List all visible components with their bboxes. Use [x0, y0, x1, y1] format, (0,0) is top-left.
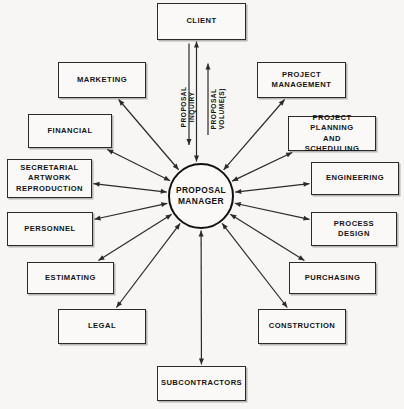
edge-project-management [224, 100, 285, 170]
edge-purchasing [230, 214, 304, 260]
proposal-manager-diagram: PROPOSAL MANAGER PROPOSAL INQUIRY PROPOS… [0, 0, 404, 409]
arrowhead [95, 216, 101, 221]
arrowhead [199, 359, 204, 365]
node-purchasing[interactable]: PURCHASING [289, 262, 376, 294]
node-label: PROJECT PLANNING AND SCHEDULING [289, 113, 375, 153]
node-project-planning[interactable]: PROJECT PLANNING AND SCHEDULING [288, 116, 376, 151]
node-project-management[interactable]: PROJECT MANAGEMENT [257, 62, 346, 98]
node-marketing[interactable]: MARKETING [58, 62, 146, 98]
edge-line [230, 214, 304, 260]
node-label: PROCESS DESIGN [331, 219, 377, 239]
arrowhead [161, 202, 167, 207]
arrowhead [298, 255, 304, 260]
edge-line [235, 203, 310, 219]
node-subcontractors[interactable]: SUBCONTRACTORS [157, 366, 246, 401]
edge-financial [107, 150, 170, 181]
flow-label-text: PROPOSAL VOLUME(S) [210, 88, 225, 130]
edge-legal [116, 223, 180, 307]
arrowhead [205, 64, 210, 70]
node-process-design[interactable]: PROCESS DESIGN [311, 212, 397, 246]
node-legal[interactable]: LEGAL [58, 309, 146, 344]
edge-line [98, 214, 171, 260]
node-personnel[interactable]: PERSONNEL [7, 212, 93, 246]
edge-engineering [235, 184, 309, 192]
flow-label-text: PROPOSAL INQUIRY [180, 86, 195, 127]
node-client[interactable]: CLIENT [157, 3, 246, 40]
edge-line [222, 223, 287, 307]
edge-line [224, 100, 285, 170]
node-label: PURCHASING [302, 273, 364, 283]
node-label: CLIENT [183, 16, 219, 26]
edge-construction [222, 223, 287, 307]
arrowhead [194, 156, 199, 162]
proposal-manager-hub[interactable]: PROPOSAL MANAGER [168, 163, 234, 229]
edge-line [235, 184, 309, 192]
edge-project-planning [232, 153, 292, 182]
node-construction[interactable]: CONSTRUCTION [258, 309, 346, 344]
node-label: SECRETARIAL ARTWORK REPRODUCTION [13, 163, 86, 193]
node-secretarial[interactable]: SECRETARIAL ARTWORK REPRODUCTION [7, 159, 92, 198]
edge-line [94, 184, 167, 192]
edge-process-design [235, 203, 310, 219]
hub-label: PROPOSAL MANAGER [170, 185, 232, 207]
arrowhead [303, 216, 309, 221]
node-label: PROJECT MANAGEMENT [269, 70, 335, 90]
node-financial[interactable]: FINANCIAL [28, 114, 112, 148]
flow-label-proposal-volumes: PROPOSAL VOLUME(S) [202, 80, 226, 138]
arrowhead [194, 42, 199, 48]
arrowhead [230, 214, 236, 219]
edge-line [107, 150, 170, 181]
flow-label-proposal-inquiry: PROPOSAL INQUIRY [172, 71, 196, 143]
node-label: ENGINEERING [323, 173, 387, 183]
node-engineering[interactable]: ENGINEERING [311, 162, 399, 195]
arrowhead [165, 214, 171, 219]
node-label: ESTIMATING [42, 273, 99, 283]
node-estimating[interactable]: ESTIMATING [27, 262, 114, 294]
edge-personnel [95, 203, 168, 219]
edge-line [232, 153, 292, 182]
edge-secretarial [94, 184, 167, 192]
node-label: LEGAL [85, 321, 119, 331]
node-label: MARKETING [74, 75, 130, 85]
node-label: FINANCIAL [45, 126, 96, 136]
edge-estimating [98, 214, 171, 260]
node-label: CONSTRUCTION [266, 321, 339, 331]
edge-line [116, 223, 180, 307]
node-label: SUBCONTRACTORS [158, 378, 245, 388]
arrowhead [199, 230, 204, 236]
node-label: PERSONNEL [21, 224, 78, 234]
edge-line [95, 203, 168, 219]
arrowhead [235, 202, 241, 207]
arrowhead [98, 255, 104, 260]
